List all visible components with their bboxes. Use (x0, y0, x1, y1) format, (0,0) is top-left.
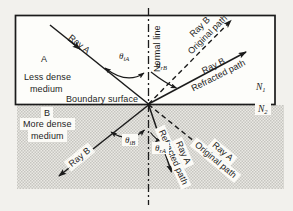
angle-theta-rb-label: θrB (156, 61, 167, 72)
index-n1-label: N1 (256, 82, 266, 95)
medium-b-label-line1: More dense (21, 119, 74, 129)
medium-b-label-line2: medium (29, 131, 66, 141)
angle-theta-ia-label: θiA (119, 52, 129, 63)
angle-theta-ib-label: θiB (123, 136, 137, 147)
medium-a-label-line2: medium (30, 84, 63, 94)
diagram-canvas (0, 0, 293, 211)
index-n2-label: N2 (256, 104, 270, 117)
medium-b-region (17, 105, 284, 189)
angle-theta-ra-label: θrA (153, 144, 168, 155)
medium-a-letter: A (41, 54, 47, 64)
medium-a-label-line1: Less dense (24, 72, 71, 82)
medium-b-letter: B (42, 108, 52, 118)
boundary-surface-label: Boundary surface (66, 94, 138, 104)
refraction-diagram: Normal line A Less dense medium B More d… (0, 0, 293, 211)
